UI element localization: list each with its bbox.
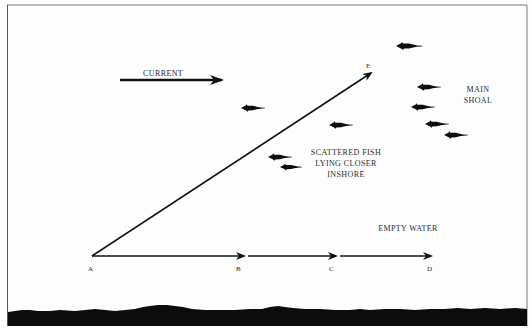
fish-icon (425, 120, 449, 127)
point-e-label: E (366, 61, 371, 72)
current-label: CURRENT (143, 68, 183, 79)
fish-icon (411, 103, 435, 110)
scattered-fish-label-line1: SCATTERED FISH (311, 147, 381, 158)
diagram-canvas: CURRENT E A B C D MAIN SHOAL SCATTERED F… (0, 0, 531, 330)
seabed (8, 305, 527, 326)
point-c-label: C (329, 264, 334, 275)
fish-icon (396, 42, 422, 50)
empty-water-label: EMPTY WATER (378, 223, 438, 234)
frame-border (7, 5, 527, 326)
scattered-fish-label-line3: INSHORE (327, 169, 364, 180)
point-b-label: B (236, 264, 241, 275)
main-shoal-label-line1: MAIN (467, 84, 490, 95)
diagram-graphic (0, 0, 531, 330)
fish-icon (444, 131, 468, 138)
point-d-label: D (427, 264, 432, 275)
scattered-fish-label-line2: LYING CLOSER (315, 158, 377, 169)
fish-icon (268, 153, 292, 160)
main-shoal-label-line2: SHOAL (464, 95, 493, 106)
fish-icon (280, 164, 302, 171)
fish-icon (241, 104, 265, 111)
fish-icon (417, 83, 441, 90)
fish-icon (329, 121, 353, 128)
point-a-label: A (88, 264, 93, 275)
